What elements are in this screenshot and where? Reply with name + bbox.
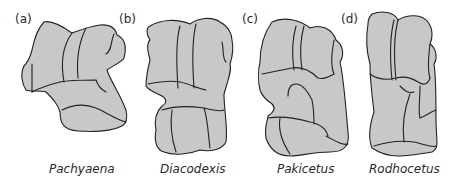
figure-drawings	[0, 0, 452, 185]
panel-label-d: (d)	[341, 12, 358, 26]
bone-drawing-pachyaena	[22, 22, 127, 132]
bone-drawing-rodhocetus	[367, 12, 437, 156]
bone-drawing-pakicetus	[259, 19, 349, 156]
caption-rodhocetus: Rodhocetus	[369, 162, 440, 176]
bone-drawing-diacodexis	[146, 18, 233, 154]
caption-diacodexis: Diacodexis	[160, 162, 226, 176]
astragalus-comparison-figure: (a) (b) (c) (d) Pachyaena Diacodexis Pak…	[0, 0, 452, 185]
caption-pachyaena: Pachyaena	[49, 162, 115, 176]
caption-pakicetus: Pakicetus	[277, 162, 334, 176]
panel-label-b: (b)	[119, 12, 136, 26]
panel-label-c: (c)	[242, 12, 258, 26]
panel-label-a: (a)	[15, 12, 32, 26]
